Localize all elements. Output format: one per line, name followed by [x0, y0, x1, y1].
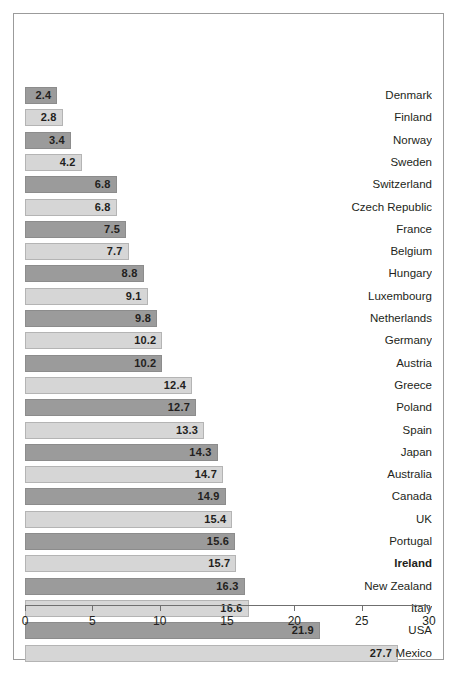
bar-value-label: 10.2 [134, 358, 161, 369]
bar: 9.8 [25, 310, 157, 327]
bar-value-label: 6.8 [95, 202, 116, 213]
x-axis-tick [362, 605, 363, 611]
x-axis-tick [429, 605, 430, 611]
bar: 13.3 [25, 422, 204, 439]
bar-value-label: 8.8 [122, 268, 143, 279]
x-axis-tick-label: 20 [288, 614, 301, 628]
category-label: Sweden [242, 154, 432, 171]
category-label: Germany [242, 332, 432, 349]
bar-value-label: 4.2 [60, 157, 81, 168]
chart-frame: 2.4Denmark2.8Finland3.4Norway4.2Sweden6.… [13, 13, 444, 660]
bar-value-label: 10.2 [134, 335, 161, 346]
x-axis-tick-label: 15 [220, 614, 233, 628]
bar-value-label: 3.4 [49, 135, 70, 146]
bar-value-label: 14.3 [189, 447, 216, 458]
bar: 2.8 [25, 109, 63, 126]
x-axis-tick [25, 605, 26, 611]
bar-value-label: 7.7 [107, 246, 128, 257]
bar-value-label: 13.3 [176, 425, 203, 436]
category-label: Norway [242, 132, 432, 149]
category-label: Ireland [242, 555, 432, 572]
category-label: Belgium [242, 243, 432, 260]
bar-value-label: 16.3 [216, 581, 243, 592]
x-axis-tick-label: 30 [422, 614, 435, 628]
bar-value-label: 15.7 [208, 558, 235, 569]
category-label: France [242, 221, 432, 238]
bar-value-label: 15.4 [204, 514, 231, 525]
bar: 16.3 [25, 578, 245, 595]
category-label: UK [242, 511, 432, 528]
bar: 8.8 [25, 265, 144, 282]
bar-value-label: 2.4 [35, 90, 56, 101]
bar: 12.4 [25, 377, 192, 394]
x-axis-tick [227, 605, 228, 611]
bar: 2.4 [25, 87, 57, 104]
category-label: Austria [242, 355, 432, 372]
category-label: Portugal [242, 533, 432, 550]
x-axis-tick-label: 25 [355, 614, 368, 628]
x-axis-tick-label: 10 [153, 614, 166, 628]
bar: 6.8 [25, 199, 117, 216]
bar-value-label: 15.6 [207, 536, 234, 547]
bar: 12.7 [25, 399, 196, 416]
category-label: Greece [242, 377, 432, 394]
bar: 6.8 [25, 176, 117, 193]
category-label: Switzerland [242, 176, 432, 193]
x-axis-tick-label: 5 [89, 614, 96, 628]
bar: 4.2 [25, 154, 82, 171]
bar: 7.7 [25, 243, 129, 260]
category-label: Finland [242, 109, 432, 126]
x-axis-tick [160, 605, 161, 611]
category-label: Luxembourg [242, 288, 432, 305]
bar: 14.7 [25, 466, 223, 483]
bar-value-label: 6.8 [95, 179, 116, 190]
bar: 10.2 [25, 332, 162, 349]
bar: 14.3 [25, 444, 218, 461]
bar-value-label: 9.8 [135, 313, 156, 324]
x-axis-tick [92, 605, 93, 611]
bar: 15.6 [25, 533, 235, 550]
bar: 10.2 [25, 355, 162, 372]
category-label: Spain [242, 422, 432, 439]
bar: 3.4 [25, 132, 71, 149]
x-axis: 051015202530 [25, 605, 434, 651]
category-label: Denmark [242, 87, 432, 104]
x-axis-tick-label: 0 [22, 614, 29, 628]
bar-value-label: 14.7 [195, 469, 222, 480]
bar: 15.4 [25, 511, 232, 528]
category-label: Canada [242, 488, 432, 505]
category-label: New Zealand [242, 578, 432, 595]
bar-value-label: 12.7 [168, 402, 195, 413]
bar-value-label: 7.5 [104, 224, 125, 235]
category-label: Japan [242, 444, 432, 461]
bar: 15.7 [25, 555, 236, 572]
bar-value-label: 2.8 [41, 112, 62, 123]
category-label: Netherlands [242, 310, 432, 327]
bar-value-label: 12.4 [164, 380, 191, 391]
plot-area: 2.4Denmark2.8Finland3.4Norway4.2Sweden6.… [14, 14, 443, 659]
bar-value-label: 9.1 [126, 291, 147, 302]
x-axis-tick [294, 605, 295, 611]
bar: 14.9 [25, 488, 226, 505]
category-label: Hungary [242, 265, 432, 282]
bar: 7.5 [25, 221, 126, 238]
bar-value-label: 14.9 [197, 491, 224, 502]
category-label: Australia [242, 466, 432, 483]
category-label: Poland [242, 399, 432, 416]
category-label: Czech Republic [242, 199, 432, 216]
bar: 9.1 [25, 288, 148, 305]
